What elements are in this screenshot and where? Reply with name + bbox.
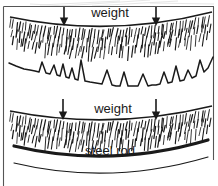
hatch-tick xyxy=(25,22,26,30)
hatch-tick xyxy=(75,123,76,131)
steel-rod-label: steel rod xyxy=(85,143,135,158)
hatch-tick xyxy=(54,120,55,128)
hatch-tick xyxy=(126,129,127,139)
hatch-tick xyxy=(162,118,163,128)
figure-container: weight weight steel rod xyxy=(0,0,218,186)
hatch-tick xyxy=(129,121,130,129)
hatch-tick xyxy=(70,36,71,46)
hatch-tick xyxy=(75,29,76,37)
hatch-tick xyxy=(135,45,136,53)
hatch-tick xyxy=(126,36,127,46)
hatch-tick xyxy=(185,39,186,46)
hatch-tick xyxy=(129,27,130,35)
hatch-tick xyxy=(25,116,26,124)
hatch-tick xyxy=(185,132,186,139)
weight-label-top: weight xyxy=(90,5,129,20)
hatch-tick xyxy=(54,26,55,34)
hatch-tick xyxy=(70,130,71,140)
hatch-tick xyxy=(135,139,136,147)
hatch-tick xyxy=(162,24,163,34)
weight-label-bottom: weight xyxy=(93,101,132,116)
diagram-canvas: weight weight steel rod xyxy=(0,0,218,186)
